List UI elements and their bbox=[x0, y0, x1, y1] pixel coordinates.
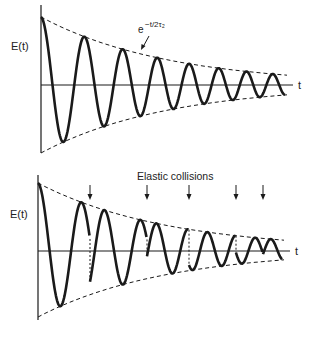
bottom-ylabel: E(t) bbox=[10, 208, 28, 220]
collisions-annotation: Elastic collisions bbox=[137, 170, 213, 182]
bottom-panel: Elastic collisions E(t) t bbox=[10, 170, 298, 320]
figure: E(t) t e −t/2τ₂ Elastic collisions E(t) … bbox=[0, 0, 313, 340]
collision-arrow-icon bbox=[261, 185, 266, 200]
bottom-waveform bbox=[38, 183, 282, 306]
collision-arrow-icon bbox=[88, 185, 93, 200]
top-envelope-lower bbox=[41, 95, 287, 153]
top-waveform bbox=[41, 17, 285, 142]
collision-arrow-icon bbox=[234, 185, 239, 200]
top-panel: E(t) t e −t/2τ₂ bbox=[11, 5, 301, 153]
envelope-label-exponent: −t/2τ₂ bbox=[145, 20, 165, 29]
collision-arrow-icon bbox=[187, 185, 192, 200]
bottom-xlabel: t bbox=[295, 245, 298, 257]
top-xlabel: t bbox=[298, 79, 301, 91]
collision-arrows bbox=[88, 185, 266, 200]
bottom-envelope-lower bbox=[38, 260, 284, 317]
top-ylabel: E(t) bbox=[11, 40, 29, 52]
envelope-label: e −t/2τ₂ bbox=[138, 20, 165, 35]
collision-arrow-icon bbox=[145, 185, 150, 200]
envelope-label-base: e bbox=[138, 24, 144, 35]
envelope-arrow-icon bbox=[141, 36, 149, 50]
